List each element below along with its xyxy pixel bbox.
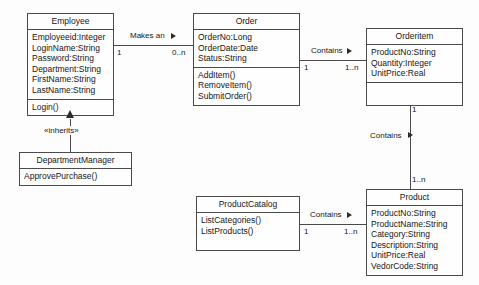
class-box-product-catalog[interactable]: ProductCatalog ListCategories() ListProd…	[196, 196, 300, 251]
attribute-row: VedorCode:String	[371, 261, 458, 272]
attribute-row: ProductNo:String	[371, 47, 458, 58]
multiplicity-orderitem-product-target: 1..n	[412, 175, 425, 184]
multiplicity-catalog-product-source: 1	[304, 227, 308, 236]
attribute-row: UnitPrice:Real	[371, 250, 458, 261]
arrowhead-makes-an	[171, 33, 176, 39]
multiplicity-employee-order-target: 0..n	[172, 48, 185, 57]
operations-compartment-orderitem	[367, 82, 462, 105]
operations-compartment-department-manager: ApprovePurchase()	[20, 169, 131, 185]
attribute-row: OrderNo:Long	[198, 32, 295, 43]
attribute-row: UnitPrice:Real	[371, 68, 458, 79]
edge-label-contains-order-orderitem: Contains	[311, 46, 343, 55]
edge-catalog-product	[300, 224, 366, 225]
attribute-row: LastName:String	[32, 85, 109, 96]
attribute-row: LoginName:String	[32, 43, 109, 54]
attribute-row: FirstName:String	[32, 74, 109, 85]
class-name-department-manager: DepartmentManager	[20, 153, 131, 169]
operation-row: ApprovePurchase()	[24, 171, 127, 182]
edge-order-orderitem	[300, 60, 366, 61]
class-name-product: Product	[367, 190, 462, 206]
multiplicity-employee-order-source: 1	[117, 48, 121, 57]
attribute-row: Status:String	[198, 53, 295, 64]
stereotype-inherits-label: «inherits»	[42, 126, 81, 135]
attributes-compartment-employee: Employeeid:Integer LoginName:String Pass…	[28, 30, 113, 99]
edge-label-makes-an: Makes an	[130, 31, 165, 40]
multiplicity-catalog-product-target: 1..n	[344, 227, 357, 236]
operation-row: ListProducts()	[201, 226, 295, 237]
operation-row-spacer	[201, 236, 295, 247]
arrowhead-contains-catalog-product	[347, 212, 352, 218]
operation-row: AddItem()	[198, 70, 295, 81]
attribute-row: Employeeid:Integer	[32, 32, 109, 43]
operation-row: SubmitOrder()	[198, 91, 295, 102]
class-name-employee: Employee	[28, 14, 113, 30]
class-box-order[interactable]: Order OrderNo:Long OrderDate:Date Status…	[193, 13, 300, 106]
edge-label-contains-catalog-product: Contains	[310, 210, 342, 219]
attribute-row: Description:String	[371, 240, 458, 251]
operations-compartment-order: AddItem() RemoveItem() SubmitOrder()	[194, 67, 299, 105]
inheritance-triangle-icon	[66, 110, 74, 118]
attribute-row: ProductName:String	[371, 219, 458, 230]
class-name-order: Order	[194, 14, 299, 30]
attribute-row: OrderDate:Date	[198, 43, 295, 54]
arrowhead-contains-order-orderitem	[347, 48, 352, 54]
multiplicity-orderitem-product-source: 1	[412, 105, 416, 114]
edge-label-contains-orderitem-product: Contains	[370, 131, 402, 140]
class-box-product[interactable]: Product ProductNo:String ProductName:Str…	[366, 189, 463, 276]
uml-diagram-canvas: Makes an 1 0..n Contains 1 1..n Contains…	[0, 0, 479, 285]
attributes-compartment-orderitem: ProductNo:String Quantity:Integer UnitPr…	[367, 45, 462, 82]
edge-inheritance-line	[70, 119, 71, 152]
edge-employee-order	[113, 45, 193, 46]
arrowhead-contains-orderitem-product	[408, 132, 413, 138]
operation-row: ListCategories()	[201, 215, 295, 226]
multiplicity-order-orderitem-source: 1	[304, 63, 308, 72]
attributes-compartment-order: OrderNo:Long OrderDate:Date Status:Strin…	[194, 30, 299, 67]
operations-compartment-product-catalog: ListCategories() ListProducts()	[197, 213, 299, 250]
attribute-row: Quantity:Integer	[371, 58, 458, 69]
class-name-orderitem: Orderitem	[367, 29, 462, 45]
multiplicity-order-orderitem-target: 1..n	[345, 63, 358, 72]
class-box-employee[interactable]: Employee Employeeid:Integer LoginName:St…	[27, 13, 114, 116]
operation-row: RemoveItem()	[198, 80, 295, 91]
attribute-row: Password:String	[32, 53, 109, 64]
class-box-orderitem[interactable]: Orderitem ProductNo:String Quantity:Inte…	[366, 28, 463, 106]
attribute-row: ProductNo:String	[371, 208, 458, 219]
attribute-row: Category:String	[371, 229, 458, 240]
attribute-row: Department:String	[32, 64, 109, 75]
class-name-product-catalog: ProductCatalog	[197, 197, 299, 213]
attributes-compartment-product: ProductNo:String ProductName:String Cate…	[367, 206, 462, 275]
class-box-department-manager[interactable]: DepartmentManager ApprovePurchase()	[19, 152, 132, 186]
